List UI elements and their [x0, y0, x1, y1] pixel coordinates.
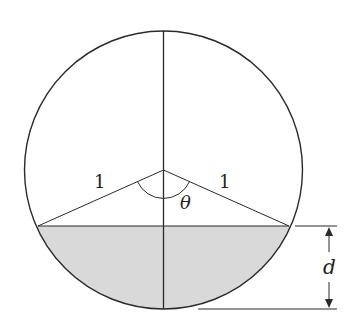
depth-label: d [323, 255, 336, 279]
arrowhead-down-icon [325, 299, 333, 308]
shaded-segment [20, 226, 310, 316]
arrowhead-up-icon [325, 227, 333, 236]
radius-label-right: 1 [219, 171, 230, 192]
circle-segment-diagram: 1 1 θ d [0, 0, 353, 328]
radius-label-left: 1 [94, 171, 105, 192]
angle-label: θ [180, 192, 191, 213]
